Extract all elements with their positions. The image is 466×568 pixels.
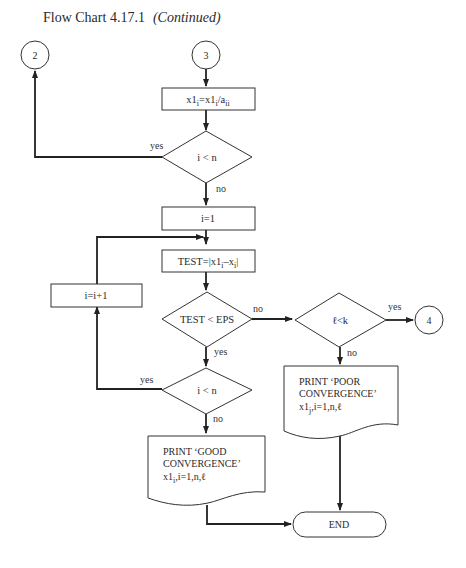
connector-2: 2 xyxy=(21,41,49,69)
output-print-poor-convergence: PRINT ‘POOR CONVERGENCE’ x1j,i=1,n,ℓ xyxy=(284,366,398,438)
svg-text:TEST < EPS: TEST < EPS xyxy=(180,314,234,325)
terminal-end: END xyxy=(293,512,386,537)
flowchart: Flow Chart 4.17.1(Continued) 2 3 4 x1i=x… xyxy=(0,0,466,568)
process-init-i: i=1 xyxy=(162,207,255,230)
process-increment-i: i=i+1 xyxy=(51,284,142,307)
edge-label-no: no xyxy=(216,183,226,194)
edge-label-yes: yes xyxy=(140,374,153,385)
svg-text:PRINT ‘POOR: PRINT ‘POOR xyxy=(299,376,361,387)
decision-i-less-than-n-2: i < n xyxy=(162,368,252,414)
decision-i-less-than-n-1: i < n xyxy=(162,131,252,183)
svg-text:4: 4 xyxy=(427,315,432,326)
svg-text:PRINT ‘GOOD: PRINT ‘GOOD xyxy=(163,446,226,457)
svg-text:i=1: i=1 xyxy=(201,213,215,224)
connector-3: 3 xyxy=(192,41,220,69)
edge-label-no: no xyxy=(213,413,223,424)
chart-title: Flow Chart 4.17.1(Continued) xyxy=(43,10,221,26)
output-print-good-convergence: PRINT ‘GOOD CONVERGENCE’ x1i,i=1,n,ℓ xyxy=(148,436,265,505)
svg-text:ℓ<k: ℓ<k xyxy=(332,315,349,326)
svg-text:i < n: i < n xyxy=(197,385,217,396)
process-assign-x1: x1i=x1i/aii xyxy=(162,88,255,110)
edge-label-no: no xyxy=(347,347,357,358)
svg-text:i < n: i < n xyxy=(197,152,217,163)
edge-label-yes: yes xyxy=(150,140,163,151)
decision-test-less-than-eps: TEST < EPS xyxy=(162,292,252,347)
edge-label-no: no xyxy=(253,303,263,314)
svg-text:2: 2 xyxy=(33,50,38,61)
svg-text:END: END xyxy=(329,519,350,530)
svg-text:3: 3 xyxy=(204,50,209,61)
connector-4: 4 xyxy=(415,306,443,334)
svg-text:CONVERGENCE’: CONVERGENCE’ xyxy=(163,458,241,469)
edge-label-yes: yes xyxy=(214,346,227,357)
svg-text:CONVERGENCE’: CONVERGENCE’ xyxy=(299,388,377,399)
decision-l-less-than-k: ℓ<k xyxy=(295,293,386,347)
svg-text:i=i+1: i=i+1 xyxy=(85,290,108,301)
process-compute-test: TEST=|x1i–xi| xyxy=(162,250,255,272)
edge-label-yes: yes xyxy=(388,301,401,312)
